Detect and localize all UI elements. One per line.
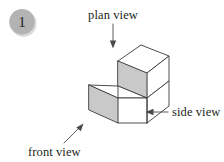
lower-step-right-face [118,98,147,123]
plan-view-annotation: plan view [88,8,138,49]
technical-drawing: 1 plan view [0,0,224,162]
question-number-badge: 1 [9,9,36,37]
front-view-leader-line [64,128,79,143]
plan-view-arrow-icon [110,41,116,49]
front-view-label: front view [28,145,81,159]
figure-canvas: 1 plan view [0,0,224,162]
side-view-label: side view [172,105,220,119]
plan-view-label: plan view [88,8,138,22]
front-view-annotation: front view [28,124,84,160]
badge-number: 1 [18,14,26,30]
stair-solid [89,45,169,123]
